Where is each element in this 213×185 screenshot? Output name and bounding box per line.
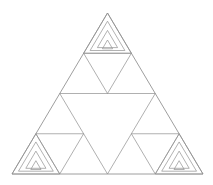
triangle-figure-canvas <box>0 0 213 185</box>
top-corner-nest-2 <box>90 21 125 50</box>
top-corner-nested-triangles <box>84 13 132 53</box>
level2-top-subdivision-group <box>84 53 132 93</box>
triangle-figure-svg <box>0 0 213 185</box>
bottom-right-corner-nest-2 <box>162 142 197 171</box>
level2-top-center-inverted-triangle <box>84 53 132 93</box>
bottom-right-corner-nested-triangles <box>155 134 203 174</box>
top-corner-nest-1 <box>84 13 132 53</box>
bottom-left-corner-nested-triangles <box>12 134 60 174</box>
bottom-left-corner-nest-2 <box>18 142 53 171</box>
